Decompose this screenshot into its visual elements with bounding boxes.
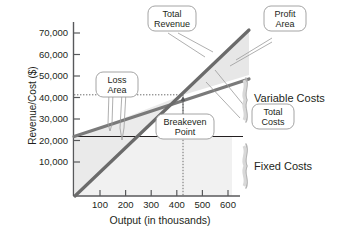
fixed-costs-brace-shadow bbox=[244, 146, 246, 186]
y-tick-label: 50,000 bbox=[16, 70, 68, 81]
breakeven-chart: Revenue/Cost ($) Output (in thousands) 7… bbox=[0, 0, 341, 236]
bracket-label-fixed-costs: Fixed Costs bbox=[254, 160, 312, 172]
callout-loss-area-line2: Area bbox=[96, 85, 138, 95]
bracket-label-variable-costs: Variable Costs bbox=[254, 92, 325, 104]
callout-breakeven-point-line2: Point bbox=[156, 127, 214, 137]
x-tick-label: 200 bbox=[112, 199, 140, 210]
callout-total-revenue-line2: Revenue bbox=[148, 19, 196, 29]
y-tick-label: 40,000 bbox=[16, 92, 68, 103]
callout-total-costs-line2: Costs bbox=[252, 117, 294, 127]
y-tick-label: 20,000 bbox=[16, 135, 68, 146]
x-tick-label: 300 bbox=[137, 199, 165, 210]
x-tick-label: 500 bbox=[188, 199, 216, 210]
x-axis-title: Output (in thousands) bbox=[75, 214, 245, 226]
y-axis-title: Revenue/Cost ($) bbox=[27, 46, 38, 166]
y-tick-label: 70,000 bbox=[16, 27, 68, 38]
x-tick-label: 400 bbox=[163, 199, 191, 210]
y-tick-label: 30,000 bbox=[16, 113, 68, 124]
x-tick-label: 600 bbox=[214, 199, 242, 210]
callout-total-costs-line1: Total bbox=[252, 107, 294, 117]
callout-total-revenue-line1: Total bbox=[148, 9, 196, 19]
variable-costs-brace-shadow bbox=[244, 80, 246, 120]
x-tick-label: 100 bbox=[86, 199, 114, 210]
y-tick-label: 10,000 bbox=[16, 156, 68, 167]
callout-profit-area-line2: Area bbox=[264, 19, 306, 29]
callout-loss-area-line1: Loss bbox=[96, 75, 138, 85]
callout-breakeven-point-line1: Breakeven bbox=[156, 117, 214, 127]
y-tick-label: 60,000 bbox=[16, 49, 68, 60]
callout-profit-area-line1: Profit bbox=[264, 9, 306, 19]
